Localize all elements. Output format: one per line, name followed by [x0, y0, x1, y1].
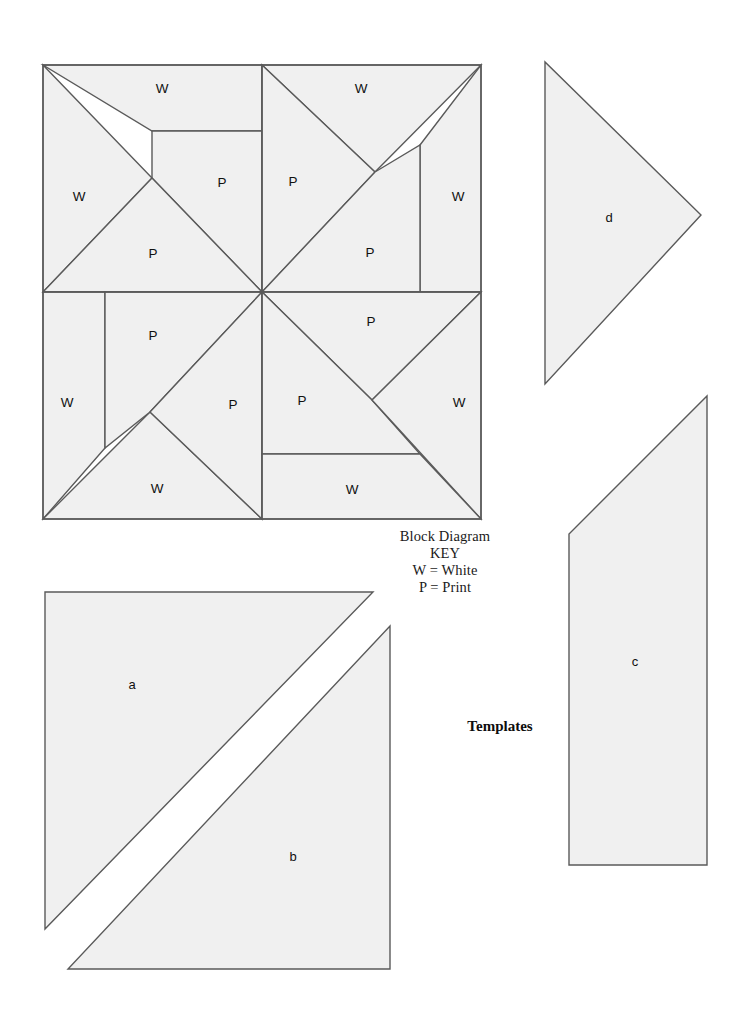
- key-entry-white: W = White: [355, 562, 535, 579]
- patch-label-tr-print-left: P: [288, 174, 297, 189]
- patch-label-tr-white-right: W: [452, 189, 465, 204]
- patch-label-br-print-top: P: [366, 314, 375, 329]
- template-c: c: [569, 396, 707, 865]
- key-heading: KEY: [355, 545, 535, 562]
- figures-canvas: W W P P W W P P: [0, 0, 746, 1010]
- patch-label-br-white-right: W: [453, 395, 466, 410]
- block-quadrant-top-left: W W P P: [43, 65, 262, 292]
- block-quadrant-top-right: W W P P: [262, 65, 481, 292]
- key-entry-print: P = Print: [355, 579, 535, 596]
- block-quadrant-bottom-left: W W P P: [43, 292, 262, 519]
- template-c-shape: [569, 396, 707, 865]
- patch-label-bl-white-left: W: [61, 395, 74, 410]
- block-quadrant-bottom-right: P P W W: [262, 292, 481, 519]
- patch-label-tl-print-right: P: [217, 175, 226, 190]
- block-diagram: W W P P W W P P: [43, 65, 481, 519]
- key-title: Block Diagram: [355, 528, 535, 545]
- template-d-shape: [545, 62, 701, 384]
- patch-label-tr-print-bottom: P: [365, 245, 374, 260]
- patch-label-tl-white-top: W: [156, 81, 169, 96]
- block-diagram-key: Block Diagram KEY W = White P = Print: [355, 528, 535, 596]
- patch-label-bl-white-bottom: W: [151, 481, 164, 496]
- template-d: d: [545, 62, 701, 384]
- patch-label-br-white-bottom: W: [346, 482, 359, 497]
- template-d-label: d: [605, 210, 612, 225]
- patch-label-br-print-left: P: [297, 393, 306, 408]
- template-b-label: b: [289, 849, 296, 864]
- template-a-label: a: [128, 677, 136, 692]
- templates-caption: Templates: [420, 718, 580, 735]
- page-sheet: W W P P W W P P: [0, 0, 746, 1010]
- patch-label-tl-print-bottom: P: [148, 246, 157, 261]
- patch-label-tl-white-left: W: [73, 189, 86, 204]
- patch-label-tr-white-top: W: [355, 81, 368, 96]
- patch-label-bl-print-top: P: [148, 328, 157, 343]
- patch-label-bl-print-right: P: [228, 397, 237, 412]
- template-c-label: c: [632, 654, 639, 669]
